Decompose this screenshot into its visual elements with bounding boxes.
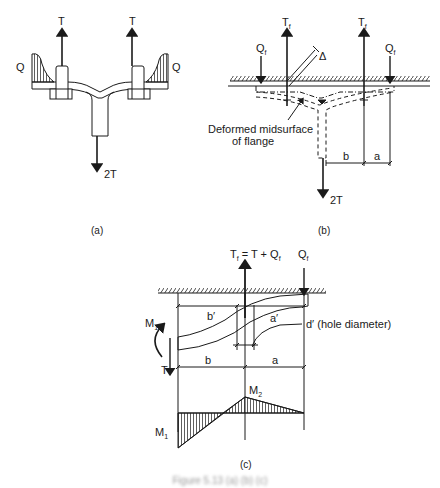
annotation-line2: of flange	[232, 135, 274, 147]
label-Tf-eq: Tf = T + Qf	[230, 248, 281, 262]
label-Qf-c: Qf	[298, 248, 309, 262]
dim-a-prime: a′	[270, 312, 278, 324]
label-M1-diagram: M1	[155, 426, 168, 440]
hole-diameter-label: d′ (hole diameter)	[306, 318, 391, 330]
label-Tf-right: Tf	[358, 16, 367, 30]
panel-b-label: (b)	[318, 225, 330, 236]
panel-c	[155, 264, 326, 448]
panel-a-label: (a)	[91, 225, 103, 236]
pressure-left	[32, 54, 54, 82]
dim-b-c: b	[205, 354, 211, 366]
label-Qf-right: Qf	[385, 42, 396, 56]
label-Tf-left: Tf	[282, 16, 291, 30]
label-delta: Δ	[319, 50, 327, 62]
dim-a-c: a	[272, 354, 279, 366]
label-T-c: T	[161, 364, 168, 376]
dim-b: b	[343, 150, 349, 162]
label-M1: M1	[145, 317, 158, 331]
label-Q-left: Q	[16, 61, 25, 73]
panel-c-label: (c)	[240, 459, 252, 470]
panel-a	[32, 32, 168, 168]
label-T-left: T	[58, 15, 65, 27]
label-T-right: T	[129, 15, 136, 27]
annotation-line1: Deformed midsurface	[208, 123, 313, 135]
label-M2-diagram: M2	[249, 384, 262, 398]
panel-b	[228, 32, 430, 194]
figure-caption: Figure 5.13 (a) (b) (c)	[0, 475, 440, 486]
dim-a: a	[374, 150, 381, 162]
tstub-web	[86, 92, 114, 136]
diagram-canvas: T T Q Q 2T (a) Tf Tf	[0, 0, 440, 488]
label-2T-b: 2T	[330, 194, 343, 206]
label-Q-right: Q	[172, 61, 181, 73]
dim-b-prime: b′	[207, 310, 215, 322]
pressure-right	[146, 54, 168, 82]
label-2T: 2T	[104, 168, 117, 180]
label-Qf-left: Qf	[256, 42, 267, 56]
flange-beam	[178, 294, 308, 350]
